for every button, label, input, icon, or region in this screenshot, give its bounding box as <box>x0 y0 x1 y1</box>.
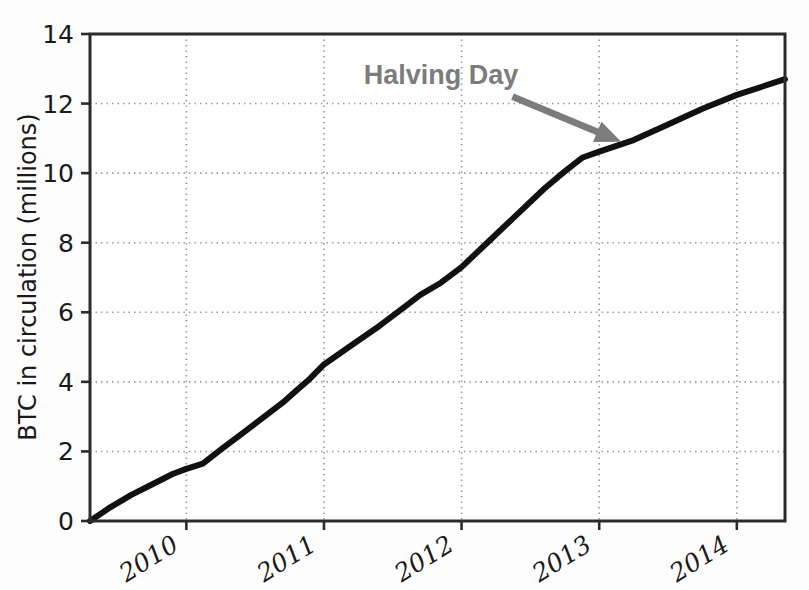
y-tick-label: 8 <box>58 229 74 258</box>
x-tick-group: 20102011201220132014 <box>113 521 736 588</box>
y-tick-label: 6 <box>58 298 74 327</box>
x-tick-label: 2013 <box>526 529 596 588</box>
x-tick-label: 2012 <box>389 529 459 588</box>
plot-background <box>90 34 785 521</box>
btc-circulation-line-chart: 02468101214 20102011201220132014 BTC in … <box>0 0 809 590</box>
x-tick-label: 2014 <box>664 529 734 588</box>
y-axis-title: BTC in circulation (millions) <box>14 113 42 440</box>
x-tick-label: 2010 <box>113 529 183 588</box>
y-tick-label: 0 <box>58 507 74 536</box>
y-tick-label: 12 <box>42 90 74 119</box>
y-tick-label: 10 <box>42 159 74 188</box>
halving-day-annotation-label: Halving Day <box>364 60 519 90</box>
y-tick-label: 4 <box>58 368 74 397</box>
y-tick-group: 02468101214 <box>42 20 90 536</box>
y-tick-label: 14 <box>42 20 74 49</box>
chart-figure: 02468101214 20102011201220132014 BTC in … <box>0 0 809 590</box>
y-tick-label: 2 <box>58 437 74 466</box>
x-tick-label: 2011 <box>251 529 321 588</box>
